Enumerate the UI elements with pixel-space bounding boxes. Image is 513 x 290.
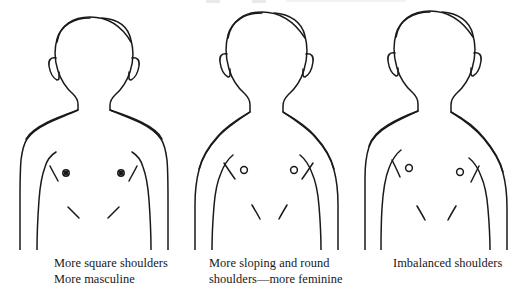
caption-line-2: More masculine — [54, 272, 168, 288]
head-crown — [57, 17, 131, 42]
right-shoulder-line — [110, 110, 162, 139]
body-outline — [365, 12, 507, 250]
body-outline — [195, 13, 338, 250]
caption-line-1: Imbalanced shoulders — [393, 256, 502, 272]
caption-imbalanced-shoulders: Imbalanced shoulders — [393, 256, 502, 272]
left-pectoral-crease — [392, 160, 400, 177]
right-nipple-ring — [457, 169, 464, 176]
right-nipple-ring — [291, 167, 298, 174]
left-shoulder-line — [26, 110, 78, 139]
figure-sloping-shoulders — [176, 0, 348, 250]
right-pectoral-crease — [129, 166, 137, 181]
figure-square-shoulders — [4, 0, 176, 250]
right-abdominal-crease — [108, 207, 119, 218]
right-abdominal-crease — [448, 206, 456, 220]
caption-line-1: More sloping and round — [209, 256, 343, 272]
right-shoulder-line — [283, 112, 334, 169]
caption-sloping-shoulders: More sloping and round shoulders—more fe… — [209, 256, 343, 287]
left-nipple-ring — [406, 165, 413, 172]
caption-line-1: More square shoulders — [54, 256, 168, 272]
figure-imbalanced-shoulders — [348, 0, 513, 250]
left-pectoral-crease — [50, 166, 58, 181]
left-shoulder-line — [199, 112, 250, 169]
right-pectoral-crease — [471, 166, 479, 182]
head-crown — [396, 11, 473, 37]
caption-line-2: shoulders—more feminine — [209, 272, 343, 288]
left-pectoral-crease — [224, 163, 235, 179]
right-abdominal-crease — [279, 205, 287, 219]
right-nipple-mark — [119, 171, 124, 176]
illustration-plate: More square shoulders More masculine Mor… — [0, 0, 513, 290]
left-abdominal-crease — [68, 207, 79, 218]
head-crown — [228, 12, 305, 38]
right-shoulder-line — [451, 112, 503, 172]
left-abdominal-crease — [417, 206, 425, 220]
left-abdominal-crease — [252, 205, 260, 219]
left-nipple-mark — [64, 171, 69, 176]
left-nipple-ring — [241, 167, 248, 174]
caption-square-shoulders: More square shoulders More masculine — [54, 256, 168, 287]
body-outline — [20, 18, 168, 250]
left-shoulder-line — [369, 111, 418, 146]
